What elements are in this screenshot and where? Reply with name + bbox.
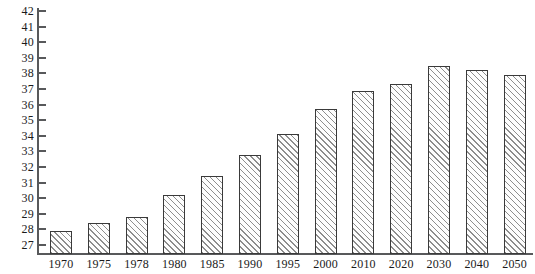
bar	[201, 176, 223, 254]
bar	[88, 223, 110, 254]
y-axis-tick-label: 35	[0, 114, 34, 126]
y-axis-tick	[39, 135, 46, 137]
y-axis-tick	[39, 72, 46, 74]
y-axis-tick-label: 31	[0, 177, 34, 189]
x-axis-tick-labels: 1970197519781980198519901995200020102020…	[39, 257, 535, 274]
bar	[163, 195, 185, 254]
y-axis-tick	[39, 26, 46, 28]
y-axis-tick	[39, 197, 46, 199]
y-axis-tick-label: 34	[0, 130, 34, 142]
y-axis-tick	[39, 104, 46, 106]
bar	[239, 155, 261, 254]
y-axis-tick-label: 40	[0, 36, 34, 48]
y-axis-tick-label: 32	[0, 161, 34, 173]
y-axis-tick-label: 41	[0, 21, 34, 33]
bar	[126, 217, 148, 254]
y-axis-tick	[39, 228, 46, 230]
y-axis-tick	[39, 41, 46, 43]
y-axis-tick	[39, 57, 46, 59]
bar-chart: 42414039383736353433323130292827 1970197…	[0, 0, 535, 274]
bar	[315, 109, 337, 254]
y-axis-tick-labels: 42414039383736353433323130292827	[0, 0, 34, 274]
y-axis-tick	[39, 88, 46, 90]
bar	[277, 134, 299, 254]
y-axis-tick	[39, 213, 46, 215]
bar	[390, 84, 412, 254]
y-axis-tick-label: 42	[0, 5, 34, 17]
y-axis-tick	[39, 119, 46, 121]
bar	[504, 75, 526, 254]
bar	[50, 231, 72, 254]
x-axis-tick-label: 2050	[492, 257, 535, 271]
y-axis-tick-label: 39	[0, 52, 34, 64]
y-axis-tick-label: 27	[0, 239, 34, 251]
bar	[428, 66, 450, 254]
y-axis-tick-label: 33	[0, 145, 34, 157]
y-axis-tick-label: 30	[0, 192, 34, 204]
y-axis-tick-label: 28	[0, 223, 34, 235]
y-axis-tick-label: 29	[0, 208, 34, 220]
bar-series	[39, 0, 535, 254]
y-axis-tick-label: 37	[0, 83, 34, 95]
y-axis-tick-label: 36	[0, 99, 34, 111]
y-axis-tick	[39, 166, 46, 168]
y-axis-tick	[39, 244, 46, 246]
y-axis-tick	[39, 182, 46, 184]
bar	[352, 91, 374, 254]
y-axis-tick	[39, 10, 46, 12]
y-axis-tick-label: 38	[0, 67, 34, 79]
bar	[466, 70, 488, 254]
y-axis-tick	[39, 150, 46, 152]
